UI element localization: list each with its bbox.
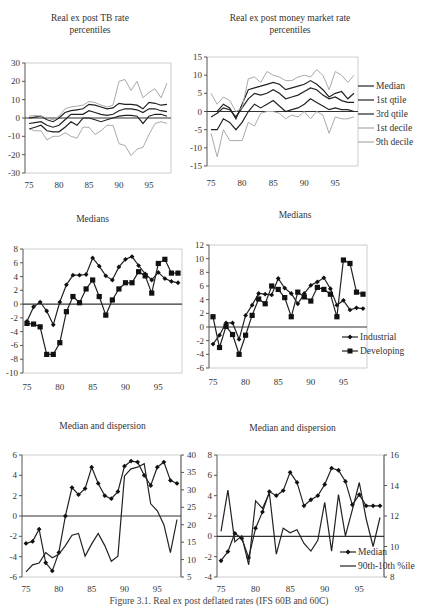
square-marker [236, 352, 241, 357]
series-1st-qtile [29, 114, 167, 132]
diamond-marker [30, 539, 35, 544]
diamond-marker [354, 305, 359, 310]
x-tick-label: 95 [153, 584, 163, 594]
y-tick-label: 6 [13, 450, 18, 460]
square-marker [90, 277, 95, 282]
diamond-marker [329, 466, 334, 471]
y-tick-label: -2 [197, 336, 205, 346]
y-tick-label-right: 14 [390, 481, 400, 491]
square-marker [256, 296, 261, 301]
y-tick-label: 8 [208, 450, 213, 460]
square-marker [51, 352, 56, 357]
square-marker [83, 286, 88, 291]
x-tick-label: 90 [300, 178, 310, 188]
series-1st-decile [29, 122, 167, 156]
y-tick-label: -10 [6, 368, 18, 378]
diamond-marker [102, 493, 107, 498]
y-tick-label: -6 [197, 363, 205, 373]
y-tick-label: -8 [11, 354, 19, 364]
y-tick-label-right: 30 [187, 485, 197, 495]
square-marker [175, 271, 180, 276]
x-tick-label: 75 [23, 382, 33, 392]
legend-label: Median [358, 547, 387, 557]
diamond-marker [135, 460, 140, 465]
y-tick-label-right: 15 [187, 537, 197, 547]
square-marker [354, 290, 359, 295]
y-tick-label: 2 [208, 511, 213, 521]
y-tick-label-right: 5 [187, 572, 192, 582]
chart-disp_tb: 6420-2-4-64035302520151057580859095 [10, 450, 197, 594]
y-tick-label: -2 [205, 552, 213, 562]
legend-label: 3rd qtile [376, 109, 408, 119]
series-industrial [27, 257, 178, 325]
diamond-marker [371, 503, 376, 508]
x-tick-label: 75 [207, 178, 217, 188]
legend-label: 1st qtile [376, 95, 406, 105]
x-tick-label: 80 [55, 180, 65, 190]
x-tick-label: 75 [22, 584, 32, 594]
x-tick-label: 90 [115, 180, 125, 190]
series-9th-decile [211, 70, 354, 112]
legend-marker [348, 335, 353, 340]
series-90th-10th-ile [26, 464, 177, 572]
x-tick-label: 85 [87, 584, 97, 594]
y-tick-label: -5 [195, 125, 203, 135]
y-tick-label-right: 35 [187, 467, 197, 477]
y-tick-label: -30 [8, 168, 20, 178]
y-tick-label: 0 [16, 113, 21, 123]
chart-medians_tb: 86420-2-4-6-8-107580859095 [6, 244, 182, 392]
square-marker [77, 300, 82, 305]
x-tick-label: 85 [274, 377, 284, 387]
square-marker [156, 261, 161, 266]
y-tick-label: 0 [200, 322, 205, 332]
square-marker [136, 269, 141, 274]
y-tick-label: -10 [190, 143, 202, 153]
x-tick-label: 85 [85, 180, 95, 190]
y-tick-label: 10 [193, 70, 203, 80]
x-tick-label: 85 [286, 584, 296, 594]
series-developing [27, 259, 178, 354]
square-marker [282, 295, 287, 300]
y-tick-label: -2 [11, 313, 19, 323]
x-tick-label: 85 [269, 178, 279, 188]
x-tick-label: 75 [209, 377, 219, 387]
legend-marker [346, 550, 351, 555]
diamond-marker [96, 481, 101, 486]
diamond-marker [176, 280, 181, 285]
square-marker [149, 290, 154, 295]
diamond-marker [260, 510, 265, 515]
square-marker [143, 273, 148, 278]
y-tick-label: 4 [14, 272, 19, 282]
diamond-marker [256, 291, 261, 296]
y-tick-label: -20 [8, 150, 20, 160]
y-tick-label: 0 [208, 531, 213, 541]
diamond-marker [328, 286, 333, 291]
diamond-marker [169, 279, 174, 284]
y-tick-label-right: 12 [390, 511, 399, 521]
legend-label: 1st decile [376, 123, 412, 133]
square-marker [360, 292, 365, 297]
diamond-marker [230, 321, 235, 326]
square-marker [24, 321, 29, 326]
square-marker [302, 294, 307, 299]
square-marker [210, 314, 215, 319]
y-tick-label: 5 [198, 88, 203, 98]
x-tick-label: 90 [306, 377, 316, 387]
y-tick-label: 12 [195, 240, 204, 250]
legend-marker [348, 349, 353, 354]
y-tick-label: 2 [13, 491, 18, 501]
square-marker [263, 301, 268, 306]
y-tick-label: 15 [193, 52, 203, 62]
diamond-marker [168, 478, 173, 483]
figure-caption: Figure 3.1. Real ex post deflated rates … [0, 596, 438, 606]
diamond-marker [77, 273, 82, 278]
square-marker [223, 324, 228, 329]
diamond-marker [84, 272, 89, 277]
square-marker [328, 292, 333, 297]
legend-label: Industrial [360, 332, 397, 342]
square-marker [44, 352, 49, 357]
legend: IndustrialDeveloping [342, 332, 405, 356]
square-marker [315, 285, 320, 290]
diamond-marker [237, 337, 242, 342]
square-marker [243, 333, 248, 338]
